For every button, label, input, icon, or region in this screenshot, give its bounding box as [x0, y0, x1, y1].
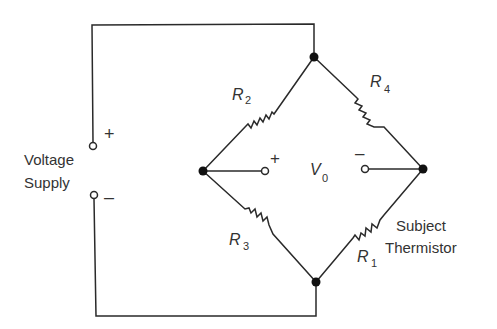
supply-bottom-wire: [94, 199, 316, 316]
r3-subscript: 3: [243, 240, 249, 252]
node-right: [419, 165, 428, 174]
supply-top-wire: [92, 24, 314, 142]
node-top: [310, 53, 319, 62]
output-plus-sign: +: [270, 149, 280, 168]
thermistor-label-line2: Thermistor: [385, 239, 457, 256]
output-plus-terminal: [262, 168, 269, 175]
node-left: [199, 167, 208, 176]
supply-plus-terminal: [90, 143, 97, 150]
circuit-svg: + – Voltage Supply + – V 0 R 2 R 4 R 3 R…: [0, 0, 497, 329]
output-voltage-label: V: [310, 161, 322, 178]
r1-subscript: 1: [371, 257, 377, 269]
wheatstone-bridge-diagram: + – Voltage Supply + – V 0 R 2 R 4 R 3 R…: [0, 0, 497, 329]
output-voltage-subscript: 0: [322, 172, 328, 184]
r1-label: R: [357, 248, 369, 265]
output-minus-sign: –: [355, 144, 365, 163]
r3-label: R: [229, 231, 241, 248]
supply-plus-sign: +: [104, 124, 115, 144]
supply-label-line2: Supply: [24, 174, 70, 191]
r2-label: R: [232, 86, 244, 103]
resistor-r3: [203, 171, 316, 282]
output-minus-terminal: [362, 166, 369, 173]
thermistor-label-line1: Subject: [396, 217, 447, 234]
r4-label: R: [370, 73, 382, 90]
resistor-r2: [203, 57, 314, 171]
supply-minus-terminal: [91, 192, 98, 199]
supply-label-line1: Voltage: [24, 151, 74, 168]
supply-minus-sign: –: [104, 187, 114, 207]
r2-subscript: 2: [245, 94, 251, 106]
r4-subscript: 4: [384, 83, 390, 95]
resistor-r4: [314, 57, 423, 169]
node-bottom: [312, 278, 321, 287]
